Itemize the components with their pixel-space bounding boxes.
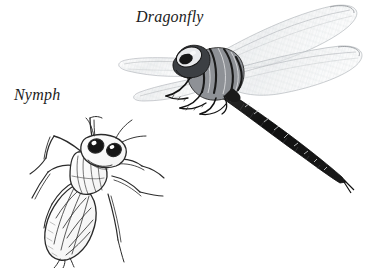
label-nymph: Nymph <box>14 87 60 103</box>
dragonfly-head <box>173 43 210 78</box>
illustration-page: Dragonfly Nymph <box>0 0 377 268</box>
figure-nymph <box>16 110 166 268</box>
dragonfly-cerci <box>344 180 354 193</box>
nymph-abdomen <box>45 185 96 268</box>
dragonfly-abdomen <box>222 92 354 193</box>
nymph-head <box>81 118 146 169</box>
